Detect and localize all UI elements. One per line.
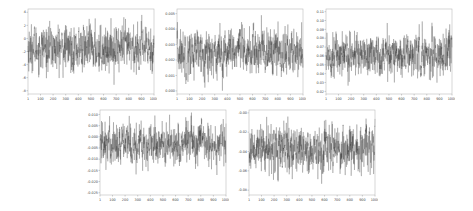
y-tick-label: 0.04 xyxy=(316,72,324,76)
x-tick-label: 300 xyxy=(211,97,217,101)
x-tick-label: 600 xyxy=(321,198,327,202)
y-tick-label: -6 xyxy=(23,76,26,80)
x-tick-label: 300 xyxy=(283,198,289,202)
x-tick-label: 1000 xyxy=(150,97,157,101)
x-tick-label: 900 xyxy=(138,97,144,101)
y-tick-label: 4 xyxy=(24,10,26,14)
x-tick-label: 100 xyxy=(37,97,43,101)
y-tick-label: 0 xyxy=(24,37,26,41)
x-tick-label: 300 xyxy=(62,97,68,101)
x-tick-label: 1000 xyxy=(448,97,455,101)
series-line xyxy=(28,15,154,85)
x-tick-label: 600 xyxy=(100,97,106,101)
y-tick-label: 0.10 xyxy=(316,19,324,23)
y-tick-label: -0.06 xyxy=(238,169,247,173)
subplot-2: 0.0050.0040.0030.0020.0010.0001100200300… xyxy=(163,6,306,103)
y-tick-label: 0.09 xyxy=(316,28,324,32)
x-tick-label: 700 xyxy=(113,97,119,101)
subplot-5: -0.00-0.02-0.04-0.06-0.08110020030040050… xyxy=(235,107,378,204)
x-tick-label: 800 xyxy=(126,97,132,101)
y-tick-label: 2 xyxy=(24,24,26,28)
x-tick-label: 100 xyxy=(186,97,192,101)
x-tick-label: 1000 xyxy=(222,198,229,202)
plot-frame xyxy=(177,9,303,94)
x-tick-label: 200 xyxy=(348,97,354,101)
series-line xyxy=(177,15,303,90)
x-tick-label: 1 xyxy=(27,97,29,101)
x-tick-label: 1000 xyxy=(299,97,306,101)
x-tick-label: 100 xyxy=(109,198,115,202)
x-tick-label: 700 xyxy=(334,198,340,202)
x-tick-label: 500 xyxy=(309,198,315,202)
x-tick-label: 700 xyxy=(411,97,417,101)
y-tick-label: -0.015 xyxy=(87,169,98,173)
y-tick-label: -8 xyxy=(23,89,26,93)
x-tick-label: 1 xyxy=(248,198,250,202)
x-tick-label: 200 xyxy=(50,97,56,101)
x-tick-label: 100 xyxy=(258,198,264,202)
x-tick-label: 1 xyxy=(176,97,178,101)
y-tick-label: -0.025 xyxy=(87,191,98,195)
y-tick-label: 0.002 xyxy=(165,58,175,62)
y-tick-label: 0.000 xyxy=(165,89,175,93)
x-tick-label: 1 xyxy=(325,97,327,101)
x-tick-label: 800 xyxy=(424,97,430,101)
x-tick-label: 500 xyxy=(237,97,243,101)
x-tick-label: 700 xyxy=(262,97,268,101)
x-tick-label: 800 xyxy=(275,97,281,101)
x-tick-label: 1 xyxy=(99,198,101,202)
series-line xyxy=(249,117,375,184)
x-tick-label: 600 xyxy=(172,198,178,202)
x-tick-label: 800 xyxy=(347,198,353,202)
y-tick-label: 0.001 xyxy=(165,74,175,78)
x-tick-label: 400 xyxy=(75,97,81,101)
y-tick-label: 0.02 xyxy=(316,90,324,94)
series-line xyxy=(326,21,452,85)
x-tick-label: 600 xyxy=(398,97,404,101)
y-tick-label: 0.11 xyxy=(316,10,324,14)
x-tick-label: 100 xyxy=(335,97,341,101)
x-tick-label: 500 xyxy=(160,198,166,202)
subplot-1: 420-2-4-6-811002003004005006007008009001… xyxy=(14,6,157,103)
x-tick-label: 900 xyxy=(436,97,442,101)
x-tick-label: 300 xyxy=(360,97,366,101)
x-tick-label: 400 xyxy=(296,198,302,202)
x-tick-label: 400 xyxy=(224,97,230,101)
x-tick-label: 400 xyxy=(373,97,379,101)
x-tick-label: 200 xyxy=(122,198,128,202)
y-tick-label: -0.020 xyxy=(87,180,98,184)
y-tick-label: 0.05 xyxy=(316,63,324,67)
y-tick-label: 0.003 xyxy=(165,43,175,47)
y-tick-label: 0.004 xyxy=(165,27,175,31)
y-tick-label: -4 xyxy=(23,63,26,67)
y-tick-label: 0.08 xyxy=(316,36,324,40)
subplot-3: 0.110.100.090.080.070.060.050.040.030.02… xyxy=(312,6,455,103)
y-tick-label: -0.08 xyxy=(238,188,247,192)
x-tick-label: 800 xyxy=(198,198,204,202)
x-tick-label: 500 xyxy=(386,97,392,101)
y-tick-label: -0.02 xyxy=(238,130,247,134)
x-tick-label: 400 xyxy=(147,198,153,202)
y-tick-label: 0.06 xyxy=(316,54,324,58)
x-tick-label: 700 xyxy=(185,198,191,202)
x-tick-label: 300 xyxy=(134,198,140,202)
y-tick-label: -0.005 xyxy=(87,146,98,150)
y-tick-label: -0.00 xyxy=(238,111,247,115)
y-tick-label: 0.005 xyxy=(165,12,175,16)
series-line xyxy=(100,113,226,175)
y-tick-label: 0.03 xyxy=(316,81,324,85)
x-tick-label: 900 xyxy=(359,198,365,202)
y-tick-label: -2 xyxy=(23,50,26,54)
x-tick-label: 200 xyxy=(271,198,277,202)
y-tick-label: 0.07 xyxy=(316,45,324,49)
x-tick-label: 900 xyxy=(210,198,216,202)
subplot-4: 0.0100.0050.000-0.005-0.010-0.015-0.020-… xyxy=(86,107,229,204)
y-tick-label: -0.04 xyxy=(238,150,247,154)
x-tick-label: 900 xyxy=(287,97,293,101)
y-tick-label: -0.010 xyxy=(87,157,98,161)
y-tick-label: 0.010 xyxy=(88,113,98,117)
x-tick-label: 500 xyxy=(88,97,94,101)
x-tick-label: 200 xyxy=(199,97,205,101)
x-tick-label: 1000 xyxy=(371,198,378,202)
y-tick-label: 0.000 xyxy=(88,135,98,139)
